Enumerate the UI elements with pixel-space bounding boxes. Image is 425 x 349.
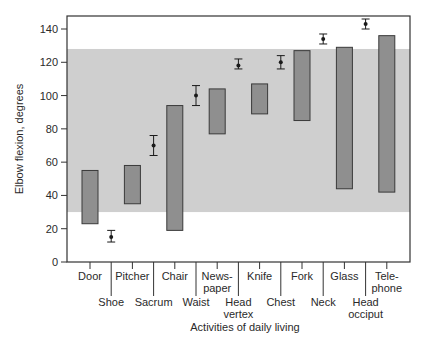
mean-dot (321, 37, 325, 41)
y-tick-label: 20 (46, 223, 58, 235)
functional-range-band (67, 49, 410, 212)
x-axis: DoorPitcherChairNews-paperKnifeForkGlass… (78, 262, 402, 320)
range-bar-telephone (379, 36, 395, 192)
y-axis-title: Elbow flexion, degrees (13, 83, 25, 194)
mean-dot (109, 235, 113, 239)
range-bar-glass (336, 47, 352, 188)
x-category-label: Glass (330, 270, 359, 282)
x-category-label: Chest (266, 296, 295, 308)
range-bar-knife (252, 84, 268, 114)
y-axis: 020406080100120140 (40, 23, 67, 268)
x-category-label: Waist (182, 296, 209, 308)
point-head-occiput (362, 19, 370, 29)
x-category-label: Pitcher (115, 270, 150, 282)
range-bar-fork (294, 51, 310, 121)
range-bar-chair (167, 106, 183, 231)
y-tick-label: 100 (40, 90, 58, 102)
range-bar-door (82, 170, 98, 223)
mean-dot (279, 60, 283, 64)
x-category-label: Head (225, 296, 251, 308)
x-category-label: occiput (348, 308, 383, 320)
x-category-label: Door (78, 270, 102, 282)
y-tick-label: 60 (46, 156, 58, 168)
x-category-label: phone (372, 282, 403, 294)
x-category-label: Tele- (375, 270, 399, 282)
y-tick-label: 0 (52, 256, 58, 268)
mean-dot (152, 144, 156, 148)
x-category-label: Neck (311, 296, 337, 308)
x-category-label: Sacrum (135, 296, 173, 308)
y-tick-label: 40 (46, 189, 58, 201)
x-axis-title: Activities of daily living (190, 321, 299, 333)
point-shoe (107, 230, 115, 242)
y-tick-label: 120 (40, 56, 58, 68)
mean-dot (194, 94, 198, 98)
x-category-label: Chair (162, 270, 189, 282)
x-category-label: vertex (223, 308, 253, 320)
range-bar-pitcher (124, 165, 140, 203)
range-bar-newspaper (209, 89, 225, 134)
x-category-label: Knife (247, 270, 272, 282)
y-tick-label: 140 (40, 23, 58, 35)
x-category-label: Fork (291, 270, 314, 282)
x-category-label: paper (203, 282, 231, 294)
x-category-label: News- (202, 270, 234, 282)
band-rect (67, 49, 410, 212)
point-neck (319, 34, 327, 44)
mean-dot (236, 64, 240, 68)
x-category-label: Shoe (98, 296, 124, 308)
elbow-flexion-chart: 020406080100120140 DoorPitcherChairNews-… (0, 0, 425, 349)
y-tick-label: 80 (46, 123, 58, 135)
x-category-label: Head (352, 296, 378, 308)
mean-dot (364, 22, 368, 26)
